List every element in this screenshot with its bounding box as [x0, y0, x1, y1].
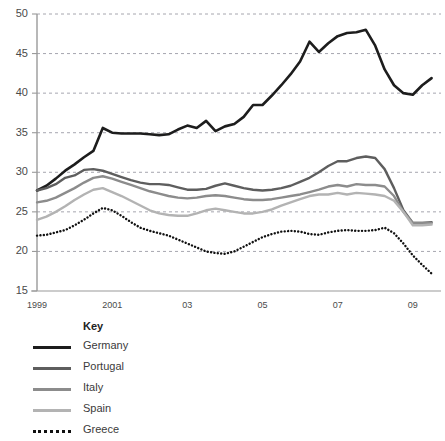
series-line-spain [37, 188, 432, 225]
series-line-germany [37, 30, 432, 191]
legend-label: Germany [83, 339, 128, 351]
series-line-italy [37, 176, 432, 223]
y-axis-label: 25 [2, 205, 28, 217]
y-axis-label: 15 [2, 284, 28, 296]
x-axis-label: 2001 [92, 300, 132, 310]
y-axis-label: 20 [2, 244, 28, 256]
chart-page: 5045403530252015 1999200103050709 Key Ge… [0, 0, 445, 441]
legend-swatch-spain [33, 409, 71, 412]
x-axis-label: 07 [318, 300, 358, 310]
legend-label: Greece [83, 423, 119, 435]
legend-swatch-greece [33, 430, 71, 433]
legend-label: Portugal [83, 360, 124, 372]
legend-title: Key [83, 320, 103, 332]
chart-legend: Key GermanyPortugalItalySpainGreece [0, 312, 445, 441]
y-axis-label: 45 [2, 47, 28, 59]
y-axis-label: 35 [2, 126, 28, 138]
x-axis-label: 03 [167, 300, 207, 310]
y-axis-label: 40 [2, 86, 28, 98]
y-axis-label: 50 [2, 7, 28, 19]
line-chart: 5045403530252015 1999200103050709 [0, 0, 445, 310]
x-axis-label: 09 [393, 300, 433, 310]
legend-label: Italy [83, 381, 103, 393]
legend-swatch-germany [33, 346, 71, 349]
legend-label: Spain [83, 402, 111, 414]
legend-swatch-portugal [33, 367, 71, 370]
legend-swatch-italy [33, 388, 71, 391]
y-axis-label: 30 [2, 165, 28, 177]
series-line-greece [37, 208, 432, 274]
x-axis-label: 05 [242, 300, 282, 310]
x-axis-label: 1999 [17, 300, 57, 310]
chart-svg [0, 0, 445, 310]
